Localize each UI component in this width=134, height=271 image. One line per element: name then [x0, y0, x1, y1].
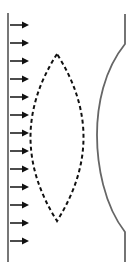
arrowhead-icon — [22, 94, 29, 101]
lens-wave-diagram — [0, 0, 134, 271]
arrowhead-icon — [22, 166, 29, 173]
arrowhead-icon — [22, 148, 29, 155]
arrowhead-icon — [22, 220, 29, 227]
incident-wave-arrows — [10, 22, 29, 245]
arrowhead-icon — [22, 184, 29, 191]
arrowhead-icon — [22, 112, 29, 119]
arrowhead-icon — [22, 22, 29, 29]
arrowhead-icon — [22, 202, 29, 209]
arrowhead-icon — [22, 238, 29, 245]
lens-outline — [31, 54, 84, 221]
arrowhead-icon — [22, 58, 29, 65]
arrowhead-icon — [22, 130, 29, 137]
emergent-wavefront — [97, 14, 125, 262]
arrowhead-icon — [22, 76, 29, 83]
arrowhead-icon — [22, 40, 29, 47]
